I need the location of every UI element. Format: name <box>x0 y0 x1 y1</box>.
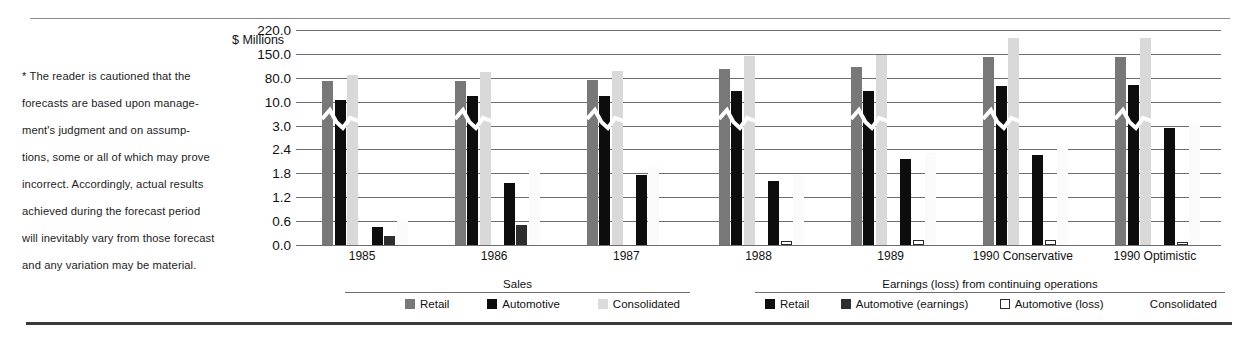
bar-earnings <box>1045 240 1056 245</box>
legend-swatch-icon <box>1000 299 1010 309</box>
legend-item-label: Retail <box>780 298 809 310</box>
y-axis-tick-label: 0.0 <box>272 238 291 253</box>
bar-sales <box>719 69 730 245</box>
bar-sales <box>599 96 610 245</box>
legend-swatch-icon <box>598 299 608 309</box>
bar-group <box>296 30 428 245</box>
bar-earnings <box>1057 149 1068 245</box>
bar-sales <box>1115 57 1126 245</box>
bar-earnings <box>504 183 515 245</box>
legend-item-label: Automotive (earnings) <box>856 298 969 310</box>
legend-sales-title: Sales <box>345 278 690 292</box>
legend-item[interactable]: Automotive (earnings) <box>841 298 969 310</box>
bar-group <box>825 30 957 245</box>
legend-swatch-icon <box>765 299 775 309</box>
legend-sales: Sales RetailAutomotiveConsolidated <box>345 278 690 310</box>
plot-area: 220.0150.080.010.03.02.41.81.20.60.0 198… <box>296 30 1221 245</box>
bar-earnings <box>768 181 779 245</box>
bar-earnings <box>900 159 911 245</box>
bar-sales <box>876 55 887 245</box>
legend-item[interactable]: Retail <box>405 298 449 310</box>
gridline <box>296 245 1221 246</box>
bar-sales <box>851 67 862 245</box>
x-axis-label: 1987 <box>613 249 640 263</box>
top-divider <box>30 18 1230 19</box>
legend-earnings: Earnings (loss) from continuing operatio… <box>755 278 1225 310</box>
bar-sales <box>996 86 1007 245</box>
bar-sales <box>1008 38 1019 245</box>
bar-earnings <box>781 241 792 245</box>
bar-sales <box>983 57 994 245</box>
legend-swatch-icon <box>1135 299 1145 309</box>
x-axis-label: 1986 <box>481 249 508 263</box>
bar-earnings <box>397 221 408 245</box>
caution-note: * The reader is cautioned that the forec… <box>22 70 287 286</box>
bar-earnings <box>648 167 659 245</box>
bar-earnings <box>372 227 383 245</box>
legend-swatch-icon <box>405 299 415 309</box>
y-axis-tick-label: 0.6 <box>272 214 291 229</box>
note-line: incorrect. Accordingly, actual results <box>22 178 287 190</box>
y-axis-tick-label: 1.8 <box>272 166 291 181</box>
note-line: ment's judgment and on assump- <box>22 124 287 136</box>
bar-earnings <box>636 175 647 245</box>
x-axis-label: 1990 Conservative <box>973 249 1073 263</box>
legend-item[interactable]: Automotive <box>487 298 560 310</box>
legend-item-label: Consolidated <box>613 298 680 310</box>
note-line: and any variation may be material. <box>22 259 287 271</box>
bar-sales <box>467 96 478 245</box>
bar-earnings <box>1189 125 1200 245</box>
legend-swatch-icon <box>487 299 497 309</box>
bar-group <box>428 30 560 245</box>
bar-earnings <box>1164 128 1175 245</box>
legend-item[interactable]: Retail <box>765 298 809 310</box>
y-axis-tick-label: 3.0 <box>272 118 291 133</box>
legend-item-label: Automotive (loss) <box>1015 298 1104 310</box>
note-line: will inevitably vary from those forecast <box>22 232 287 244</box>
bar-sales <box>322 81 333 245</box>
legend-earnings-title: Earnings (loss) from continuing operatio… <box>755 278 1225 292</box>
bar-sales <box>587 80 598 245</box>
legend-item[interactable]: Consolidated <box>1135 298 1217 310</box>
bar-sales <box>744 56 755 245</box>
legend-item[interactable]: Consolidated <box>598 298 680 310</box>
chart-page: * The reader is cautioned that the forec… <box>0 0 1238 337</box>
bar-sales <box>455 81 466 245</box>
legend-item[interactable]: Automotive (loss) <box>1000 298 1104 310</box>
y-axis-tick-label: 220.0 <box>257 23 291 38</box>
bar-sales <box>480 72 491 245</box>
y-axis-tick-label: 10.0 <box>265 94 291 109</box>
x-axis-label: 1985 <box>349 249 376 263</box>
legend-item-label: Consolidated <box>1150 298 1217 310</box>
legend-item-label: Automotive <box>502 298 560 310</box>
bar-earnings <box>529 171 540 245</box>
bar-groups <box>296 30 1221 245</box>
bar-group <box>560 30 692 245</box>
note-line: achieved during the forecast period <box>22 205 287 217</box>
bar-sales <box>335 100 346 245</box>
legend-earnings-items: RetailAutomotive (earnings)Automotive (l… <box>755 293 1225 310</box>
bar-earnings <box>793 175 804 245</box>
bar-sales <box>731 91 742 245</box>
bottom-divider <box>26 322 1232 325</box>
note-line: tions, some or all of which may prove <box>22 151 287 163</box>
bar-earnings <box>384 236 395 245</box>
bar-group <box>692 30 824 245</box>
bar-sales <box>1140 38 1151 245</box>
bar-earnings <box>516 225 527 245</box>
bar-sales <box>863 91 874 245</box>
bar-earnings <box>913 240 924 245</box>
y-axis-tick-label: 80.0 <box>265 70 291 85</box>
y-axis-tick-label: 150.0 <box>257 46 291 61</box>
bar-sales <box>347 75 358 245</box>
bar-group <box>1089 30 1221 245</box>
legend-item-label: Retail <box>420 298 449 310</box>
y-axis-tick-label: 2.4 <box>272 142 291 157</box>
bar-sales <box>612 71 623 245</box>
note-line: forecasts are based upon manage- <box>22 97 287 109</box>
x-axis-label: 1989 <box>877 249 904 263</box>
legend-swatch-icon <box>841 299 851 309</box>
x-axis-label: 1990 Optimistic <box>1114 249 1197 263</box>
bar-earnings <box>1032 155 1043 245</box>
bar-sales <box>1128 85 1139 245</box>
